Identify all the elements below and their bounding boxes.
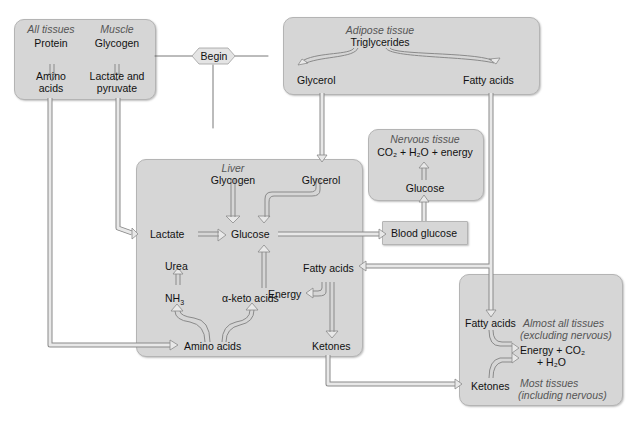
blood-glucose-label: Blood glucose <box>382 227 466 239</box>
lactate-pyruvate-label-1: Lactate and <box>80 70 154 82</box>
nervous-products-label: CO₂ + H₂O + energy <box>368 146 482 158</box>
liver-heading: Liver <box>208 162 258 174</box>
nh3-label: NH3 <box>165 292 184 309</box>
adipose-fatty-acids-label: Fatty acids <box>463 74 514 86</box>
liver-fatty-acids-label: Fatty acids <box>303 262 354 274</box>
liver-amino-acids-label: Amino acids <box>184 340 241 352</box>
glucose-label: Glucose <box>231 228 270 240</box>
liver-glycerol-label: Glycerol <box>296 174 346 186</box>
protein-label: Protein <box>20 37 82 49</box>
peripheral-products-label-1: Energy + CO₂ <box>520 344 585 356</box>
muscle-glycogen-label: Glycogen <box>80 37 154 49</box>
nervous-glucose-label: Glucose <box>368 182 482 194</box>
all-tissues-heading: All tissues <box>20 23 82 35</box>
amino-acids-label-1: Amino <box>20 70 82 82</box>
peripheral-ketones-label: Ketones <box>471 380 510 392</box>
amino-acids-label-2: acids <box>20 82 82 94</box>
lactate-label: Lactate <box>150 228 184 240</box>
energy-label: Energy <box>268 288 301 300</box>
liver-ketones-label: Ketones <box>312 340 351 352</box>
muscle-heading: Muscle <box>80 23 154 35</box>
urea-label: Urea <box>165 260 188 272</box>
triglycerides-label: Triglycerides <box>330 36 430 48</box>
adipose-heading: Adipose tissue <box>330 24 430 36</box>
begin-label: Begin <box>196 50 232 62</box>
peripheral-products-label-2: + H₂O <box>537 356 566 368</box>
including-nervous-label: (including nervous) <box>518 389 607 401</box>
nervous-tissue-heading: Nervous tissue <box>368 133 482 145</box>
peripheral-fatty-acids-label: Fatty acids <box>465 317 516 329</box>
lactate-pyruvate-label-2: pyruvate <box>80 82 154 94</box>
adipose-glycerol-label: Glycerol <box>297 74 336 86</box>
excluding-nervous-label: (excluding nervous) <box>520 329 612 341</box>
liver-glycogen-label: Glycogen <box>204 174 262 186</box>
most-tissues-label: Most tissues <box>520 377 578 389</box>
almost-all-tissues-label: Almost all tissues <box>523 317 604 329</box>
